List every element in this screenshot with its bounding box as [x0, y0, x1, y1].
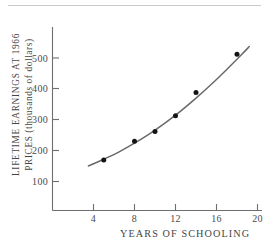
y-axis-label: LIFETIME EARNINGS AT 1966 PRICES (thousa…	[10, 10, 35, 200]
x-tick-label-4: 4	[91, 213, 96, 224]
data-point	[235, 52, 240, 57]
plot-area: 500 400 300 200 100 4 8 12 16 20	[0, 0, 269, 252]
x-axis-ticks	[94, 204, 258, 211]
y-axis-ticks	[53, 58, 60, 182]
x-tick-label-8: 8	[132, 213, 137, 224]
y-axis-label-line-2: PRICES (thousands of dollars)	[22, 10, 35, 200]
fitted-curve	[88, 47, 249, 166]
x-tick-label-20: 20	[252, 213, 263, 224]
data-point	[173, 113, 178, 118]
x-axis-label: YEARS OF SCHOOLING	[120, 228, 250, 239]
y-axis-label-line-1: LIFETIME EARNINGS AT 1966	[10, 10, 23, 200]
x-tick-label-12: 12	[170, 213, 181, 224]
data-point	[153, 129, 158, 134]
data-point-group	[101, 52, 239, 163]
chart-figure: 500 400 300 200 100 4 8 12 16 20 LIFETIM…	[0, 0, 269, 252]
x-tick-label-16: 16	[211, 213, 222, 224]
data-point	[194, 90, 199, 95]
data-point	[101, 157, 106, 162]
data-point	[132, 139, 137, 144]
